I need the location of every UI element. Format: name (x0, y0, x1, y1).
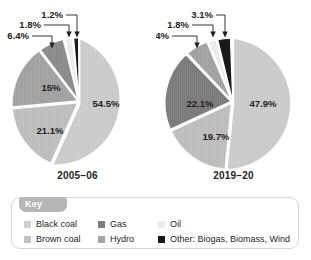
pie-chart-figure: 54.5% 21.1% 15% 6.4% 1.8% 1.2% (0, 0, 311, 260)
legend-item-other: Other: Biogas, Biomass, Wind (158, 235, 296, 244)
legend-swatch-other-icon (158, 236, 165, 243)
callout-other-2005: 1.2% (41, 9, 79, 38)
legend-title-tab: Key (19, 197, 67, 212)
legend-swatch-oil-icon (158, 221, 165, 228)
legend-item-hydro: Hydro (98, 235, 158, 244)
callout-label-oil-2005: 1.8% (19, 19, 41, 30)
pie-svg-2005-06: 54.5% 21.1% 15% 6.4% 1.8% 1.2% (0, 0, 155, 175)
legend-item-gas: Gas (98, 220, 158, 229)
legend-item-oil: Oil (158, 220, 296, 229)
legend-label-oil: Oil (170, 220, 181, 229)
slice-label-gas-2019: 22.1% (187, 98, 214, 109)
legend-swatch-brown-coal-icon (24, 236, 31, 243)
callout-other-2019: 3.1% (191, 9, 227, 38)
callout-oil-2019: 1.8% (167, 19, 215, 38)
callout-hydro-2019: 5.4% (156, 30, 200, 49)
legend-item-black-coal: Black coal (24, 220, 98, 229)
legend-swatch-hydro-icon (98, 236, 105, 243)
slice-label-brown-coal-2005: 21.1% (37, 125, 64, 136)
pie-svg-2019-20: 47.9% 19.7% 22.1% 5.4% 1.8% 3.1% (156, 0, 311, 175)
slice-label-hydro-2005: 15% (41, 82, 61, 93)
slice-label-black-coal-2005: 54.5% (93, 98, 120, 109)
legend-swatch-gas-icon (98, 221, 105, 228)
legend-items: Black coal Gas Oil Brown coal Hydro Othe (24, 217, 296, 247)
legend-label-other: Other: Biogas, Biomass, Wind (170, 235, 290, 244)
year-label-2019-20: 2019–20 (156, 170, 311, 181)
legend-box: Key Black coal Gas Oil Brown coal Hydro (11, 197, 299, 249)
legend-label-black-coal: Black coal (36, 220, 77, 229)
legend-swatch-black-coal-icon (24, 221, 31, 228)
slice-label-black-coal-2019: 47.9% (250, 98, 277, 109)
legend-label-hydro: Hydro (110, 235, 134, 244)
legend-label-brown-coal: Brown coal (36, 235, 81, 244)
year-label-2005-06: 2005–06 (0, 170, 155, 181)
callout-label-other-2019: 3.1% (191, 9, 213, 20)
callout-label-hydro-2019: 5.4% (156, 30, 170, 41)
callout-label-oil-2019: 1.8% (167, 19, 189, 30)
chart-2005-06: 54.5% 21.1% 15% 6.4% 1.8% 1.2% (0, 0, 155, 190)
callout-label-other-2005: 1.2% (41, 9, 63, 20)
slice-label-brown-coal-2019: 19.7% (203, 131, 230, 142)
callout-label-gas-2005: 6.4% (7, 30, 29, 41)
legend-label-gas: Gas (110, 220, 127, 229)
legend-item-brown-coal: Brown coal (24, 235, 98, 244)
charts-area: 54.5% 21.1% 15% 6.4% 1.8% 1.2% (0, 0, 311, 190)
chart-2019-20: 47.9% 19.7% 22.1% 5.4% 1.8% 3.1% (156, 0, 311, 190)
